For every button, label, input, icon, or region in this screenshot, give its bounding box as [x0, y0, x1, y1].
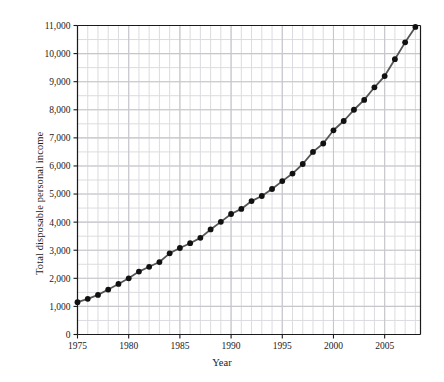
- data-point-marker: [382, 73, 388, 79]
- chart-figure: 1975198019851990199520002005 01,0002,000…: [0, 0, 444, 382]
- y-tick-label: 1,000: [49, 302, 71, 312]
- data-point-marker: [95, 292, 101, 298]
- data-point-marker: [75, 299, 81, 305]
- data-point-marker: [197, 235, 203, 241]
- data-point-marker: [177, 245, 183, 251]
- data-point-marker: [392, 56, 398, 62]
- y-tick-label: 11,000: [45, 21, 71, 31]
- y-tick-label: 5,000: [49, 189, 71, 199]
- data-point-marker: [351, 107, 357, 113]
- data-point-marker: [249, 198, 255, 204]
- data-point-marker: [157, 259, 163, 265]
- data-point-marker: [361, 97, 367, 103]
- x-tick-label: 1985: [170, 341, 189, 351]
- data-point-marker: [126, 275, 132, 281]
- data-point-marker: [412, 24, 418, 30]
- y-tick-label: 6,000: [49, 161, 71, 171]
- data-point-marker: [269, 186, 275, 192]
- y-tick-label: 7,000: [49, 133, 71, 143]
- y-tick-label: 10,000: [44, 49, 70, 59]
- data-point-marker: [208, 227, 214, 233]
- y-tick-label: 8,000: [49, 105, 71, 115]
- y-tick-label: 0: [66, 330, 71, 340]
- data-point-marker: [85, 296, 91, 302]
- data-point-marker: [300, 161, 306, 167]
- y-axis-title: Total disposable personal income: [34, 132, 45, 275]
- data-point-marker: [290, 171, 296, 177]
- data-point-marker: [320, 141, 326, 147]
- y-tick-label: 9,000: [49, 77, 71, 87]
- x-axis-title: Year: [0, 357, 444, 368]
- data-markers: [75, 24, 419, 305]
- line-chart: 1975198019851990199520002005 01,0002,000…: [0, 0, 444, 382]
- y-tick-label: 3,000: [49, 246, 71, 256]
- x-tick-label: 2005: [375, 341, 394, 351]
- data-point-marker: [116, 281, 122, 287]
- data-point-marker: [218, 219, 224, 225]
- data-point-marker: [167, 250, 173, 256]
- data-point-marker: [259, 193, 265, 199]
- x-tick-label: 1975: [68, 341, 87, 351]
- data-point-marker: [331, 127, 337, 133]
- x-tick-label: 2000: [324, 341, 343, 351]
- data-point-marker: [372, 84, 378, 90]
- x-axis-tick-labels: 1975198019851990199520002005: [68, 341, 394, 351]
- y-tick-label: 4,000: [49, 218, 71, 228]
- data-point-marker: [136, 269, 142, 275]
- data-point-marker: [105, 287, 111, 293]
- x-tick-label: 1995: [273, 341, 292, 351]
- x-tick-label: 1980: [119, 341, 138, 351]
- data-point-marker: [238, 206, 244, 212]
- data-point-marker: [310, 149, 316, 155]
- data-point-marker: [228, 211, 234, 217]
- data-point-marker: [341, 118, 347, 124]
- y-tick-label: 2,000: [49, 274, 71, 284]
- x-tick-label: 1990: [222, 341, 241, 351]
- y-axis-tick-labels: 01,0002,0003,0004,0005,0006,0007,0008,00…: [44, 21, 70, 340]
- data-point-marker: [187, 240, 193, 246]
- data-point-marker: [146, 264, 152, 270]
- data-point-marker: [279, 178, 285, 184]
- data-point-marker: [402, 39, 408, 45]
